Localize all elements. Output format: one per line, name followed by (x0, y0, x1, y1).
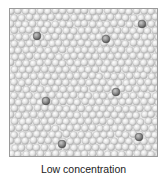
solvent-molecule (22, 98, 29, 105)
solvent-molecule (133, 33, 140, 40)
solvent-molecule (129, 105, 136, 112)
solvent-molecule (26, 14, 33, 21)
solvent-molecule (122, 157, 129, 158)
solvent-molecule (148, 98, 155, 105)
solute-molecule (135, 133, 143, 141)
solvent-molecule (148, 111, 155, 118)
solvent-molecule (144, 53, 151, 60)
figure-caption: Low concentration (0, 163, 167, 175)
solvent-molecule (29, 46, 36, 53)
solvent-molecule (147, 33, 154, 40)
solvent-molecule (41, 144, 48, 151)
solvent-molecule (115, 52, 122, 59)
solvent-molecule (103, 85, 110, 92)
solvent-molecule (11, 40, 18, 47)
solvent-molecule (41, 14, 48, 21)
solvent-molecule (85, 144, 92, 151)
solvent-molecule (55, 13, 62, 20)
solvent-molecule (59, 98, 66, 105)
solvent-molecule (152, 27, 158, 34)
solvent-molecule (63, 40, 70, 47)
solvent-molecule (155, 85, 158, 92)
solvent-molecule (96, 125, 103, 132)
solvent-molecule (93, 117, 100, 124)
solvent-molecule (30, 111, 37, 118)
solvent-molecule (70, 91, 77, 98)
solvent-molecule (48, 66, 55, 73)
solvent-molecule (118, 137, 125, 144)
solvent-molecule (11, 27, 18, 34)
solvent-molecule (81, 125, 88, 132)
solute-molecule (42, 97, 50, 105)
solvent-molecule (96, 98, 103, 105)
solvent-molecule (67, 9, 74, 14)
solvent-molecule (52, 111, 59, 118)
solvent-molecule (11, 118, 18, 125)
solvent-molecule (130, 39, 137, 46)
solvent-molecule (100, 65, 107, 72)
solvent-molecule (41, 40, 48, 47)
solvent-molecule (137, 40, 144, 47)
solvent-molecule (107, 14, 114, 21)
solvent-molecule (66, 21, 73, 28)
solvent-molecule (107, 27, 114, 34)
solvent-molecule (114, 66, 121, 73)
solvent-molecule (82, 137, 89, 144)
solvent-molecule (89, 150, 96, 157)
solvent-molecule (25, 78, 32, 85)
solvent-molecule (118, 20, 125, 27)
solvent-molecule (89, 124, 96, 131)
solvent-molecule (70, 52, 77, 59)
solvent-molecule (85, 40, 92, 47)
solvent-molecule (89, 138, 96, 145)
solvent-molecule (41, 66, 48, 73)
solvent-molecule (19, 26, 26, 33)
solvent-molecule (93, 78, 100, 85)
solvent-molecule (10, 9, 15, 15)
solvent-molecule (74, 138, 81, 145)
solvent-molecule (118, 59, 125, 66)
solvent-molecule (67, 150, 74, 157)
solvent-molecule (99, 79, 106, 86)
solvent-molecule (70, 66, 77, 73)
solvent-molecule (85, 14, 92, 21)
solvent-molecule (30, 137, 37, 144)
solvent-molecule (55, 156, 62, 157)
solvent-molecule (66, 73, 73, 80)
solvent-molecule (99, 143, 106, 150)
solvent-molecule (67, 98, 74, 105)
solvent-molecule (104, 72, 111, 79)
solvent-molecule (96, 9, 103, 15)
solvent-molecule (126, 150, 133, 157)
solvent-molecule (96, 33, 103, 40)
solute-molecule (138, 20, 146, 28)
solvent-molecule (115, 143, 122, 150)
solvent-molecule (14, 137, 21, 144)
solvent-molecule (41, 118, 48, 125)
solution-container (9, 8, 158, 157)
solvent-molecule (48, 104, 55, 111)
solvent-molecule (78, 131, 85, 138)
solvent-molecule (111, 73, 118, 80)
solvent-molecule (38, 137, 45, 144)
solvent-molecule (111, 20, 118, 27)
solvent-molecule (37, 9, 44, 15)
solvent-molecule (15, 33, 22, 40)
solvent-molecule (125, 59, 132, 66)
solvent-molecule (15, 124, 22, 131)
solvent-molecule (104, 151, 111, 157)
solvent-molecule (107, 119, 114, 126)
solvent-molecule (145, 79, 152, 86)
solvent-molecule (141, 98, 148, 105)
solvent-molecule (111, 151, 118, 158)
solvent-molecule (74, 86, 81, 93)
solvent-molecule (10, 111, 14, 118)
solvent-molecule (74, 124, 81, 131)
solvent-molecule (148, 137, 155, 144)
solvent-molecule (149, 125, 156, 132)
solvent-molecule (41, 26, 48, 33)
solvent-molecule (137, 52, 144, 59)
solvent-molecule (48, 117, 55, 124)
solvent-molecule (85, 27, 92, 34)
solvent-molecule (44, 124, 51, 131)
